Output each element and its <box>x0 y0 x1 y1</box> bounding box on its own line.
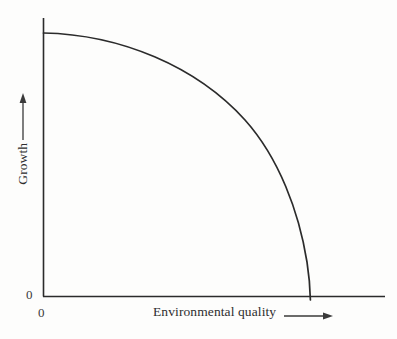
y-axis-title: Growth <box>16 134 30 194</box>
right-arrow-icon <box>284 313 333 320</box>
y-axis-zero-label: 0 <box>26 288 33 301</box>
growth-environment-tradeoff-figure: 0 0 Environmental quality Growth <box>0 0 397 339</box>
tradeoff-frontier-curve <box>44 33 311 300</box>
x-axis-title: Environmental quality <box>153 305 276 319</box>
plot-area <box>0 0 397 339</box>
x-axis-zero-label: 0 <box>38 306 45 319</box>
